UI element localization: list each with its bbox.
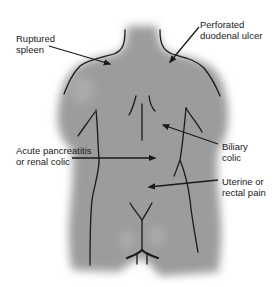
label-line: Perforated — [200, 19, 262, 30]
label-line: spleen — [16, 44, 55, 55]
label-uterine-rectal-pain: Uterine or rectal pain — [222, 176, 266, 198]
label-ruptured-spleen: Ruptured spleen — [16, 33, 55, 55]
label-perforated-duodenal-ulcer: Perforated duodenal ulcer — [200, 19, 262, 41]
label-acute-pancreatitis-renal-colic: Acute pancreatitis or renal colic — [16, 145, 92, 167]
label-biliary-colic: Biliary colic — [222, 141, 248, 163]
label-line: Ruptured — [16, 33, 55, 44]
label-line: duodenal ulcer — [200, 30, 262, 41]
label-line: Uterine or — [222, 176, 266, 187]
label-line: colic — [222, 152, 248, 163]
referred-pain-diagram: Ruptured spleen Perforated duodenal ulce… — [0, 0, 276, 287]
arrow-ruptured-spleen — [49, 46, 110, 64]
label-line: or renal colic — [16, 156, 92, 167]
label-line: Acute pancreatitis — [16, 145, 92, 156]
label-line: Biliary — [222, 141, 248, 152]
label-line: rectal pain — [222, 187, 266, 198]
